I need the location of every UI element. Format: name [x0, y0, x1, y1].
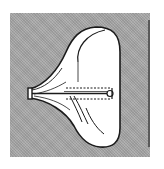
neck-opening	[28, 88, 32, 99]
sac-body	[30, 27, 120, 147]
sac-illustration	[0, 0, 164, 169]
